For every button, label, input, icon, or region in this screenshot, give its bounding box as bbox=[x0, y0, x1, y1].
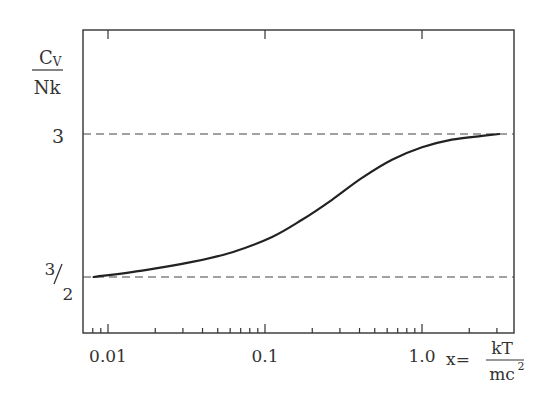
y-tick-label-3: 3 bbox=[52, 125, 64, 147]
axis-ticks bbox=[93, 30, 497, 333]
y-label-numerator: C bbox=[39, 47, 53, 68]
plot-frame bbox=[83, 30, 514, 333]
heat-capacity-chart: 0.010.11.0 3 3 2 C V Nk x= kT mc 2 bbox=[0, 0, 555, 416]
y-fraction-denominator: 2 bbox=[63, 284, 74, 304]
x-label-denominator: mc bbox=[489, 364, 515, 384]
x-tick-label: 1.0 bbox=[408, 346, 435, 366]
y-axis-label: C V Nk bbox=[32, 47, 63, 98]
x-axis-label: x= kT mc 2 bbox=[446, 338, 524, 384]
y-label-numerator-sub: V bbox=[52, 55, 62, 69]
x-label-superscript: 2 bbox=[518, 360, 525, 373]
y-label-denominator: Nk bbox=[34, 77, 62, 98]
x-tick-labels: 0.010.11.0 bbox=[89, 346, 435, 366]
x-tick-label: 0.01 bbox=[89, 346, 127, 366]
y-tick-label-three-halves: 3 2 bbox=[45, 259, 74, 304]
x-label-prefix: x= bbox=[446, 349, 470, 369]
reference-lines bbox=[83, 134, 514, 277]
y-fraction-numerator: 3 bbox=[45, 259, 56, 279]
x-tick-label: 0.1 bbox=[251, 346, 278, 366]
x-label-numerator: kT bbox=[491, 338, 513, 358]
data-curve bbox=[94, 134, 500, 277]
